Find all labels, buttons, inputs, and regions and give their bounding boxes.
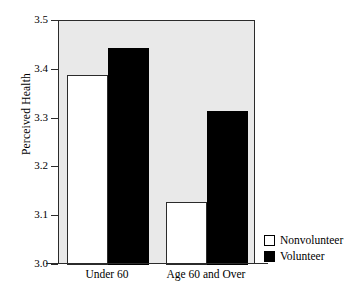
legend-item-volunteer[interactable]: Volunteer	[264, 249, 343, 263]
bar-volunteer	[108, 48, 149, 265]
chart-figure: Perceived Health 3.03.13.23.33.43.5 Unde…	[0, 0, 363, 295]
legend-label: Nonvolunteer	[280, 234, 343, 246]
y-axis-tick-label: 3.5	[16, 14, 48, 25]
bar-nonvolunteer	[166, 202, 207, 265]
x-axis-category-label: Age 60 and Over	[136, 267, 276, 281]
x-axis-line	[46, 263, 268, 264]
y-axis-tick-label: 3.1	[16, 209, 48, 220]
y-axis-tick	[51, 20, 58, 21]
y-axis-tick-label: 3.4	[16, 63, 48, 74]
legend-label: Volunteer	[280, 250, 325, 262]
legend-item-nonvolunteer[interactable]: Nonvolunteer	[264, 233, 343, 247]
y-axis-tick	[51, 264, 58, 265]
legend-swatch-icon	[264, 251, 275, 262]
y-axis-tick-label: 3.3	[16, 112, 48, 123]
y-axis-tick-label: 3.2	[16, 160, 48, 171]
y-axis-tick	[51, 215, 58, 216]
y-axis-tick	[51, 69, 58, 70]
plot-area	[58, 20, 255, 264]
y-axis-tick	[51, 118, 58, 119]
bar-nonvolunteer	[67, 75, 108, 265]
chart-legend: Nonvolunteer Volunteer	[264, 233, 343, 265]
y-axis-tick	[51, 166, 58, 167]
legend-swatch-icon	[264, 235, 275, 246]
bar-volunteer	[207, 111, 248, 265]
